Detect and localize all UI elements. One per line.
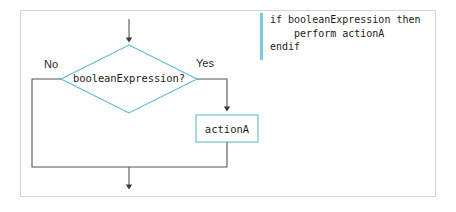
- pseudocode-block: if booleanExpression then perform action…: [270, 13, 421, 54]
- connector-merge: [129, 142, 227, 167]
- yes-path-line: [197, 79, 227, 110]
- merge-path-line: [129, 142, 227, 167]
- connector-yes: [197, 79, 227, 110]
- branch-label-no: No: [44, 58, 58, 70]
- branch-label-yes: Yes: [196, 57, 214, 69]
- flowchart-figure: No Yes booleanExpression? actionA if boo…: [0, 0, 456, 212]
- decision-label: booleanExpression?: [61, 72, 197, 84]
- process-label: actionA: [196, 123, 258, 135]
- pseudocode-accent-bar: [260, 13, 263, 60]
